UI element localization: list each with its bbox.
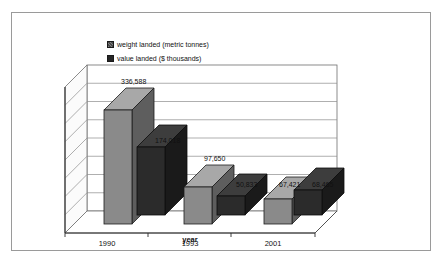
x-axis-title: year bbox=[182, 235, 198, 244]
chart-svg: 336,588 174,018 97,650 50,833 67,421 68,… bbox=[12, 13, 432, 252]
datalabel-2001-value: 68,465 bbox=[312, 181, 334, 188]
datalabel-1990-weight: 336,588 bbox=[121, 78, 146, 85]
x-axis-title-svg: year bbox=[12, 229, 432, 247]
plot-area: 336,588 174,018 97,650 50,833 67,421 68,… bbox=[12, 13, 432, 252]
datalabel-1993-weight: 97,650 bbox=[204, 155, 226, 162]
datalabel-1993-value: 50,833 bbox=[236, 181, 258, 188]
datalabel-2001-weight: 67,421 bbox=[279, 181, 301, 188]
chart-frame: weight landed (metric tonnes) value land… bbox=[11, 12, 431, 251]
datalabel-1990-value: 174,018 bbox=[155, 137, 180, 144]
